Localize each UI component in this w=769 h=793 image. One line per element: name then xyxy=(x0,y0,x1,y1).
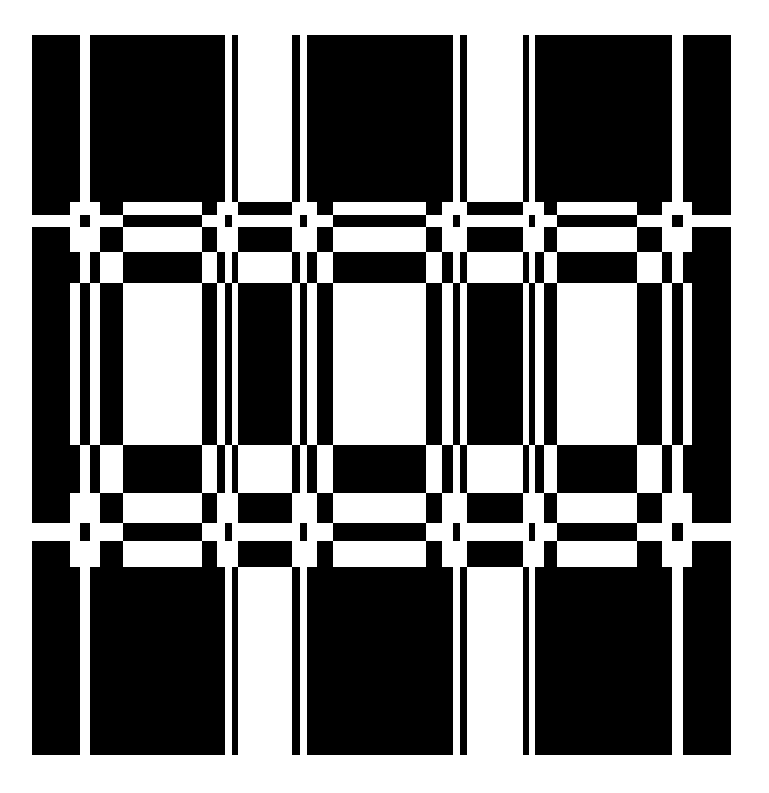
pattern-block xyxy=(32,541,70,567)
pattern-block xyxy=(523,567,529,575)
pattern-block xyxy=(123,215,202,227)
pattern-block xyxy=(683,567,731,575)
pattern-block xyxy=(683,575,731,755)
pattern-block xyxy=(637,227,662,252)
pattern-block xyxy=(100,493,123,523)
pattern-block xyxy=(100,202,123,215)
pattern-block xyxy=(90,575,225,755)
pattern-block xyxy=(238,493,292,523)
pattern-block xyxy=(300,523,307,541)
pattern-block xyxy=(32,445,80,493)
pattern-block xyxy=(238,202,292,215)
pattern-block xyxy=(442,445,453,493)
pattern-block xyxy=(535,35,672,195)
pattern-block xyxy=(460,575,467,755)
pattern-block xyxy=(32,283,70,445)
pattern-block xyxy=(100,541,123,567)
pattern-block xyxy=(123,252,202,283)
pattern-block xyxy=(100,283,123,445)
pattern-block xyxy=(90,567,225,575)
pattern-block xyxy=(460,567,467,575)
pattern-block xyxy=(529,523,535,541)
pattern-block xyxy=(535,252,544,283)
pattern-block xyxy=(292,567,300,575)
pattern-block xyxy=(333,445,426,493)
pattern-block xyxy=(90,35,225,195)
pattern-block xyxy=(232,445,238,493)
pattern-block xyxy=(32,195,80,202)
pattern-block xyxy=(225,215,232,227)
pattern-block xyxy=(453,215,460,227)
pattern-block xyxy=(217,252,225,283)
pattern-block xyxy=(535,575,672,755)
pattern-block xyxy=(523,252,529,283)
pattern-block xyxy=(232,567,238,575)
pattern-block xyxy=(80,523,90,541)
pattern-block xyxy=(692,227,731,252)
pattern-block xyxy=(637,493,662,523)
pattern-block xyxy=(544,541,557,567)
pattern-block xyxy=(544,227,557,252)
pattern-block xyxy=(217,445,225,493)
pattern-block xyxy=(692,202,731,215)
pattern-block xyxy=(333,215,426,227)
pattern-block xyxy=(426,202,442,215)
pattern-block xyxy=(672,215,683,227)
pattern-block xyxy=(544,283,557,445)
pattern-block xyxy=(225,523,232,541)
pattern-block xyxy=(202,202,217,215)
pattern-block xyxy=(467,227,523,252)
pattern-block xyxy=(426,541,442,567)
pattern-block xyxy=(307,445,317,493)
pattern-block xyxy=(460,252,467,283)
pattern-block xyxy=(683,252,731,283)
pattern-block xyxy=(460,35,467,195)
pattern-block xyxy=(662,252,672,283)
pattern-block xyxy=(460,195,467,202)
pattern-block xyxy=(292,195,300,202)
pattern-block xyxy=(523,195,529,202)
pattern-block xyxy=(292,445,300,493)
pattern-block xyxy=(442,252,453,283)
pattern-block xyxy=(300,215,307,227)
pattern-block xyxy=(529,215,535,227)
pattern-block xyxy=(232,195,238,202)
pattern-block xyxy=(317,202,333,215)
pattern-block xyxy=(90,252,100,283)
pattern-block xyxy=(672,523,683,541)
pattern-block xyxy=(300,283,307,445)
pattern-block xyxy=(232,35,238,195)
pattern-block xyxy=(683,445,731,493)
pattern-block xyxy=(535,567,672,575)
pattern-block xyxy=(80,215,90,227)
pattern-block xyxy=(202,493,217,523)
pattern-block xyxy=(307,252,317,283)
pattern-block xyxy=(557,215,637,227)
pattern-block xyxy=(202,227,217,252)
pattern-block xyxy=(32,567,80,575)
pattern-block xyxy=(557,252,637,283)
pattern-block xyxy=(238,227,292,252)
pattern-block xyxy=(317,283,333,445)
pattern-block xyxy=(426,283,442,445)
pattern-block xyxy=(535,445,544,493)
pattern-block xyxy=(90,445,100,493)
pattern-block xyxy=(32,575,80,755)
pattern-block xyxy=(90,195,225,202)
pattern-block xyxy=(544,493,557,523)
pattern-block xyxy=(238,283,292,445)
pattern-block xyxy=(535,195,672,202)
pattern-block xyxy=(453,283,460,445)
pattern-block xyxy=(523,575,529,755)
pattern-block xyxy=(683,35,731,195)
pattern-block xyxy=(333,252,426,283)
pattern-block xyxy=(32,493,70,523)
pattern-block xyxy=(692,541,731,567)
pattern-block xyxy=(637,202,662,215)
pattern-block xyxy=(672,283,683,445)
pattern-block xyxy=(460,445,467,493)
pattern-block xyxy=(557,523,637,541)
pattern-block xyxy=(232,575,238,755)
pattern-block xyxy=(100,227,123,252)
pattern-block xyxy=(683,195,731,202)
